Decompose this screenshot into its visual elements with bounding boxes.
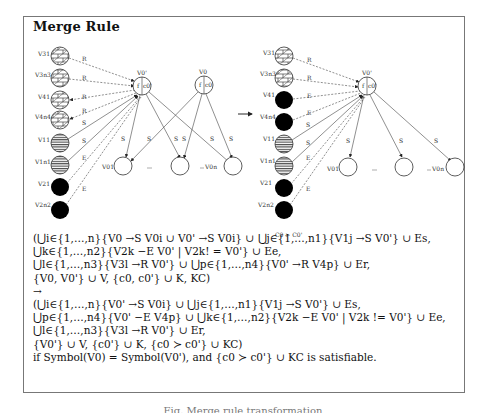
svg-text:c0: c0 [205, 81, 212, 88]
svg-text:E: E [307, 109, 311, 116]
node-v11 [51, 134, 69, 152]
left-target-edges [126, 92, 232, 162]
svg-text:R: R [307, 56, 312, 63]
node-v3n3-right [275, 69, 293, 87]
svg-text:E: E [306, 185, 310, 192]
svg-text:S: S [174, 135, 178, 142]
svg-text:c0': c0' [143, 82, 152, 89]
svg-text:R: R [82, 93, 87, 100]
node-v0-prime-left: V0' f c0' [133, 69, 152, 95]
svg-text:V21: V21 [259, 179, 272, 186]
svg-text:S: S [399, 137, 403, 144]
rule-formula: (⋃i∈{1,…,n}{V0 →S V0i ∪ V0' →S V0i} ∪ ⋃j… [33, 232, 463, 364]
svg-text:E: E [306, 154, 310, 161]
svg-text:R: R [82, 107, 87, 114]
svg-text:R: R [82, 55, 87, 62]
formula-condition: if Symbol(V0) = Symbol(V0'), and {c0 ≻ c… [33, 351, 463, 364]
formula-arrow: → [33, 285, 463, 298]
svg-text:V3n3: V3n3 [259, 70, 276, 77]
svg-text:S: S [121, 135, 125, 142]
svg-text:V4n4: V4n4 [259, 113, 276, 120]
node-v0-left: V0 f c0 [195, 68, 213, 94]
formula-rhs-line-3: ⋃l∈{1,…,n3}{V3l →R V0'} ∪ Er, [33, 324, 463, 337]
node-v21-right [275, 179, 293, 197]
node-v41-right [275, 91, 293, 109]
svg-text:S: S [182, 135, 186, 142]
right-edge-labels: R R E E S S E E [306, 56, 312, 192]
node-v11-right [275, 135, 293, 153]
right-child-labels: V31 V3n3 V41 V4n4 V11 V1n1 V21 V2n2 [257, 49, 276, 208]
svg-text:V0n: V0n [204, 163, 217, 170]
right-diagram: V31 V3n3 V41 V4n4 V11 V1n1 V21 V2n2 R R … [257, 47, 464, 238]
formula-lhs-line-4: {V0, V0'} ∪ V, {c0, c0'} ∪ K, KC) [33, 272, 463, 285]
svg-text:V21: V21 [37, 180, 50, 187]
svg-text:V0': V0' [136, 69, 147, 76]
svg-text:V11: V11 [37, 136, 50, 143]
left-target-edge-labels: S S S S S S [121, 135, 233, 142]
svg-text:V41: V41 [37, 93, 50, 100]
node-v0-prime-right: V0' f c0' [358, 69, 377, 95]
formula-rhs-line-2: ⋃p∈{1,…,n4}{V0' −E V4p} ∪ ⋃k∈{1,…,n2}{V2… [33, 311, 463, 324]
formula-lhs-line-1: (⋃i∈{1,…,n}{V0 →S V0i ∪ V0' →S V0i} ∪ ⋃j… [33, 232, 463, 245]
left-child-edges [66, 58, 141, 205]
svg-text:V01: V01 [101, 163, 114, 170]
svg-text:E: E [82, 154, 86, 161]
formula-lhs-line-2: ⋃k∈{1,…,n2}{V2k −E V0' | V2k! = V0'} ∪ E… [33, 245, 463, 258]
svg-text:V31: V31 [262, 49, 275, 56]
node-v31 [51, 47, 69, 65]
svg-text:V3n3: V3n3 [34, 71, 51, 78]
node-v41 [51, 91, 69, 109]
left-diagram: V31 V3n3 V41 V4n4 V11 V1n1 V21 V2n2 R R … [34, 47, 242, 219]
left-child-labels: V31 V3n3 V41 V4n4 V11 V1n1 V21 V2n2 [34, 50, 51, 208]
svg-text:S: S [210, 135, 214, 142]
svg-text:V2n2: V2n2 [34, 201, 51, 208]
node-v21 [51, 178, 69, 196]
svg-text:S: S [82, 137, 86, 144]
svg-text:R: R [307, 74, 312, 81]
svg-text:S: S [147, 135, 151, 142]
node-v1n1-right [275, 157, 293, 175]
formula-lhs-line-3: ⋃l∈{1,…,n3}{V3l →R V0'} ∪ ⋃p∈{1,…,n4}{V0… [33, 258, 463, 271]
left-child-nodes [51, 47, 69, 219]
left-edge-labels: R R R R S S E E [82, 55, 87, 192]
svg-text:S: S [306, 139, 310, 146]
formula-rhs-line-1: (⋃i∈{1,…,n}{V0' →S V0i} ∪ ⋃j∈{1,…,n1}{V1… [33, 298, 463, 311]
svg-text:V31: V31 [37, 50, 50, 57]
svg-text:V0: V0 [198, 68, 207, 75]
svg-text:E: E [82, 185, 86, 192]
node-v4n4-right [275, 113, 293, 131]
right-child-nodes [275, 47, 293, 219]
svg-text:S: S [82, 119, 86, 126]
node-v4n4 [51, 111, 69, 129]
svg-text:V1n1: V1n1 [259, 157, 276, 164]
node-v31-right [275, 47, 293, 65]
svg-text:V0n: V0n [431, 165, 444, 172]
svg-text:c0': c0' [368, 82, 377, 89]
svg-text:V2n2: V2n2 [257, 201, 274, 208]
right-target-nodes: V01 V0n [326, 158, 464, 176]
svg-text:S: S [229, 135, 233, 142]
right-target-edges [350, 92, 451, 161]
svg-text:S: S [434, 137, 438, 144]
svg-text:E: E [307, 92, 311, 99]
node-v2n2-right [275, 201, 293, 219]
svg-text:V4n4: V4n4 [34, 113, 51, 120]
node-v3n3 [51, 69, 69, 87]
node-v1n1 [51, 156, 69, 174]
formula-rhs-line-4: {V0'} ∪ V, {c0'} ∪ K, {c0 ≻ c0'} ∪ KC) [33, 338, 463, 351]
node-v2n2 [51, 201, 69, 219]
svg-text:V11: V11 [262, 135, 275, 142]
svg-text:V1n1: V1n1 [34, 158, 51, 165]
svg-text:S: S [306, 121, 310, 128]
right-child-edges [290, 58, 365, 205]
left-target-nodes: V01 V0n [101, 157, 242, 175]
svg-text:S: S [346, 137, 350, 144]
svg-text:V0': V0' [361, 69, 372, 76]
svg-text:V01: V01 [326, 165, 339, 172]
svg-text:V41: V41 [262, 91, 275, 98]
figure-caption: Fig. Merge rule transformation [0, 405, 486, 413]
svg-text:R: R [82, 74, 87, 81]
